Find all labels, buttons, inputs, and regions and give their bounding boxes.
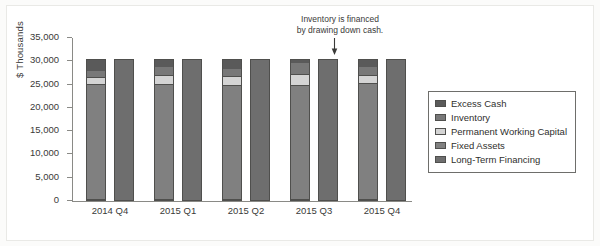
legend-item[interactable]: Permanent Working Capital xyxy=(435,125,569,138)
long-term-financing-bar[interactable] xyxy=(386,59,406,201)
bar-segment[interactable] xyxy=(155,85,173,200)
chart-legend: Excess CashInventoryPermanent Working Ca… xyxy=(428,91,576,173)
x-axis-category-label: 2015 Q1 xyxy=(146,205,210,216)
y-axis-tick: 35,000 xyxy=(67,37,72,38)
bar-segment[interactable] xyxy=(87,60,105,71)
stacked-assets-bar[interactable] xyxy=(154,59,174,201)
legend-color-swatch xyxy=(435,142,446,149)
stacked-assets-bar[interactable] xyxy=(222,59,242,201)
y-axis-tick: 0 xyxy=(67,200,72,201)
long-term-financing-bar[interactable] xyxy=(318,59,338,201)
long-term-financing-bar[interactable] xyxy=(250,59,270,201)
y-axis-tick-label: 30,000 xyxy=(30,53,59,66)
y-axis-tick: 20,000 xyxy=(67,107,72,108)
y-axis-tick-label: 10,000 xyxy=(30,146,59,159)
bar-segment[interactable] xyxy=(291,75,309,86)
bar-segment[interactable] xyxy=(359,76,377,84)
y-axis-tick-label: 5,000 xyxy=(35,170,59,183)
x-axis-category-label: 2015 Q3 xyxy=(282,205,346,216)
y-axis-tick-label: 0 xyxy=(54,193,59,206)
bar-segment[interactable] xyxy=(87,85,105,200)
stacked-assets-bar[interactable] xyxy=(358,59,378,202)
legend-item[interactable]: Fixed Assets xyxy=(435,139,569,152)
long-term-financing-bar[interactable] xyxy=(114,59,134,201)
y-axis-line xyxy=(72,38,73,201)
chart-figure: $ Thousands Inventory is financed by dra… xyxy=(0,0,600,246)
x-axis-line xyxy=(72,201,412,202)
bar-segment[interactable] xyxy=(359,84,377,200)
y-axis-tick: 30,000 xyxy=(67,60,72,61)
legend-color-swatch xyxy=(435,100,446,107)
bar-segment[interactable] xyxy=(155,76,173,86)
y-axis-tick-label: 20,000 xyxy=(30,100,59,113)
x-axis-category-label: 2015 Q2 xyxy=(214,205,278,216)
y-axis-tick: 5,000 xyxy=(67,177,72,178)
bar-segment[interactable] xyxy=(155,67,173,75)
y-axis-tick: 10,000 xyxy=(67,153,72,154)
bar-segment[interactable] xyxy=(223,86,241,200)
stacked-assets-bar[interactable] xyxy=(86,59,106,201)
legend-item[interactable]: Inventory xyxy=(435,111,569,124)
legend-item[interactable]: Excess Cash xyxy=(435,97,569,110)
bar-segment[interactable] xyxy=(87,78,105,85)
legend-item-label: Inventory xyxy=(451,112,490,124)
legend-color-swatch xyxy=(435,114,446,121)
chart-annotation: Inventory is financed by drawing down ca… xyxy=(275,14,405,36)
bar-segment[interactable] xyxy=(155,60,173,67)
legend-item[interactable]: Long-Term Financing xyxy=(435,153,569,166)
bar-segment[interactable] xyxy=(359,60,377,68)
legend-item-label: Long-Term Financing xyxy=(451,154,540,166)
y-axis-title: $ Thousands xyxy=(14,21,25,78)
y-axis-tick: 25,000 xyxy=(67,84,72,85)
bar-segment[interactable] xyxy=(223,77,241,86)
x-axis-category-label: 2014 Q4 xyxy=(78,205,142,216)
y-axis-tick-label: 25,000 xyxy=(30,77,59,90)
y-axis-tick-label: 15,000 xyxy=(30,123,59,136)
bar-segment[interactable] xyxy=(87,71,105,78)
legend-item-label: Fixed Assets xyxy=(451,140,505,152)
bar-segment[interactable] xyxy=(291,86,309,200)
annotation-line-2: by drawing down cash. xyxy=(275,25,405,36)
bar-segment[interactable] xyxy=(223,69,241,77)
legend-item-label: Excess Cash xyxy=(451,98,506,110)
y-axis-tick: 15,000 xyxy=(67,130,72,131)
legend-item-label: Permanent Working Capital xyxy=(451,126,567,138)
legend-color-swatch xyxy=(435,128,446,135)
bar-segment[interactable] xyxy=(223,60,241,69)
plot-area: 05,00010,00015,00020,00025,00030,00035,0… xyxy=(72,38,412,201)
legend-color-swatch xyxy=(435,156,446,163)
x-axis-category-label: 2015 Q4 xyxy=(350,205,414,216)
stacked-assets-bar[interactable] xyxy=(290,59,310,201)
bar-segment[interactable] xyxy=(291,63,309,75)
annotation-line-1: Inventory is financed xyxy=(275,14,405,25)
long-term-financing-bar[interactable] xyxy=(182,59,202,201)
y-axis-tick-label: 35,000 xyxy=(30,30,59,43)
bar-segment[interactable] xyxy=(359,67,377,76)
